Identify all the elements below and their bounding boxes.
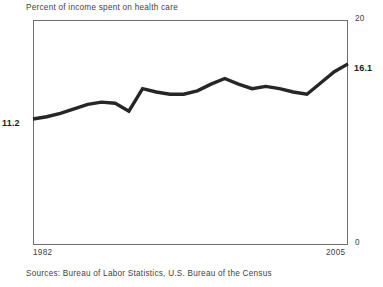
line-chart-plot (33, 20, 348, 245)
chart-figure: Percent of income spent on health care 2… (0, 0, 383, 287)
y-axis-max-label: 20 (355, 14, 365, 23)
end-value-annotation: 16.1 (354, 63, 372, 73)
source-note: Sources: Bureau of Labor Statistics, U.S… (26, 269, 272, 278)
y-axis-min-label: 0 (355, 238, 360, 247)
chart-title: Percent of income spent on health care (26, 3, 178, 12)
x-axis-end-label: 2005 (326, 248, 345, 257)
data-series-line (33, 64, 348, 119)
x-axis-start-label: 1982 (33, 248, 52, 257)
start-value-annotation: 11.2 (2, 118, 20, 128)
